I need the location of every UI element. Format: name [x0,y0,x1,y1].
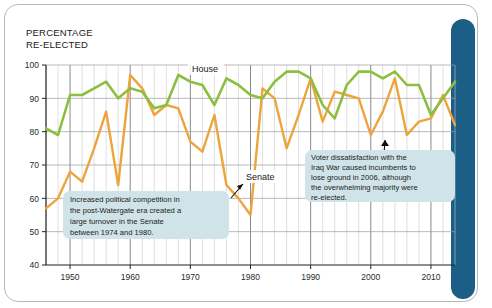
y-tick-label: 40 [30,260,40,270]
y-axis-ticks: 405060708090100 [25,60,46,270]
watergate-callout: Increased political competition in the p… [63,184,243,239]
watergate-line-4: between 1974 and 1980. [70,228,154,237]
x-tick-label: 1980 [241,272,260,282]
watergate-arrowhead [237,184,243,190]
watergate-line-1: Increased political competition in [70,195,180,204]
senate-label-group: Senate [243,170,281,183]
x-tick-label: 1960 [121,272,140,282]
watergate-line-2: the post-Watergate era created a [70,206,182,215]
iraq-line-5: re-elected. [311,193,347,202]
chart-svg: PERCENTAGE RE-ELECTED 405060708090100 19… [0,0,492,308]
x-axis-ticks: 1950196019701980199020002010 [61,265,441,282]
y-tick-label: 90 [30,94,40,104]
x-tick-label: 1970 [181,272,200,282]
y-tick-label: 60 [30,194,40,204]
chart-title-line1: PERCENTAGE [26,27,93,38]
iraq-arrowhead [381,140,389,146]
x-tick-label: 1990 [301,272,320,282]
x-tick-label: 1950 [61,272,80,282]
y-tick-label: 70 [30,160,40,170]
house-label-group: House [188,62,224,75]
iraq-line-1: Voter dissatisfaction with the [311,153,407,162]
senate-label: Senate [246,172,275,182]
iraq-line-3: lose ground in 2006, although [311,173,411,182]
iraq-line-2: Iraq War caused incumbents to [311,163,416,172]
x-tick-label: 2010 [421,272,440,282]
watergate-line-3: large turnover in the Senate [70,217,164,226]
iraq-war-callout: Voter dissatisfaction with the Iraq War … [305,140,455,202]
y-tick-label: 100 [25,60,39,70]
iraq-line-4: the overwhelming majority were [311,183,418,192]
y-tick-label: 80 [30,127,40,137]
house-label: House [192,64,218,74]
chart-figure: PERCENTAGE RE-ELECTED 405060708090100 19… [0,0,492,308]
y-tick-label: 50 [30,227,40,237]
chart-title-line2: RE-ELECTED [26,39,88,50]
x-tick-label: 2000 [361,272,380,282]
